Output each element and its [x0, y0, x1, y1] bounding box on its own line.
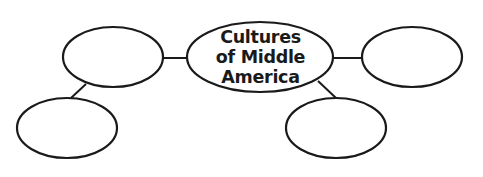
- node-right-bottom[interactable]: [286, 98, 386, 158]
- center-label-line-3: America: [221, 67, 299, 87]
- node-left-top[interactable]: [63, 27, 163, 87]
- center-label-line-1: Cultures: [220, 27, 301, 47]
- center-label-line-2: of Middle: [216, 47, 305, 67]
- node-left-bottom[interactable]: [17, 98, 117, 158]
- center-node-label: Cultures of Middle America: [187, 22, 334, 92]
- edge-left-top-left-bottom: [71, 84, 86, 98]
- node-right-top[interactable]: [362, 27, 462, 87]
